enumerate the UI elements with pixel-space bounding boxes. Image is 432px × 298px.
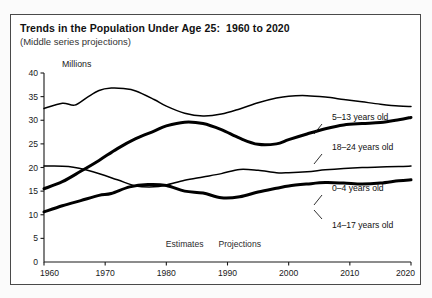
y-axis-tick-label: 15 — [28, 186, 38, 196]
x-axis-tick-label: 2010 — [340, 268, 359, 278]
y-axis-tick-label: 35 — [28, 92, 38, 102]
y-axis-tick-label: 10 — [28, 210, 38, 220]
series-label-14-17-years-old: 14–17 years old — [332, 220, 393, 230]
annotation-estimates: Estimates — [166, 239, 204, 249]
screenshot-page: Trends in the Population Under Age 25: 1… — [0, 0, 432, 298]
series-label-0-4-years-old: 0–4 years old — [332, 183, 384, 193]
y-axis-tick-label: 40 — [28, 68, 38, 78]
annotations-layer: EstimatesProjections — [166, 239, 261, 249]
x-axis-tick-label: 1980 — [157, 268, 176, 278]
y-axis-tick-label: 20 — [28, 163, 38, 173]
x-axis-tick-label: 1960 — [40, 268, 59, 278]
series-label-18-24-years-old: 18–24 years old — [332, 142, 393, 152]
x-axis-tick-label: 2000 — [279, 268, 298, 278]
y-axis-tick-label: 0 — [33, 257, 38, 267]
x-axis-tick-label: 2020 — [396, 268, 415, 278]
x-axis-tick-label: 1990 — [218, 268, 237, 278]
y-axis-tick-label: 25 — [28, 139, 38, 149]
annotation-projections: Projections — [218, 239, 261, 249]
chart-plot-area: 0510152025303540Millions1960197019801990… — [10, 14, 421, 285]
series-label-5-13-years-old: 5–13 years old — [332, 112, 389, 122]
y-axis-tick-label: 5 — [33, 233, 38, 243]
y-axis-tick-label: 30 — [28, 115, 38, 125]
series-line-18-24-years-old — [44, 117, 411, 188]
y-axis-title: Millions — [62, 59, 92, 69]
line-chart-svg: 0510152025303540Millions1960197019801990… — [10, 14, 421, 285]
x-axis-tick-label: 1970 — [96, 268, 115, 278]
